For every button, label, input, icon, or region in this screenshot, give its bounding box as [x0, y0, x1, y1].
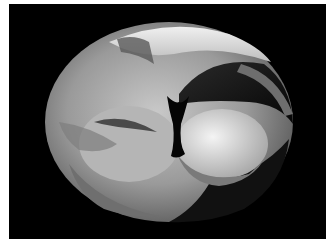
render-viewport — [9, 4, 326, 239]
surface-render — [9, 4, 326, 239]
